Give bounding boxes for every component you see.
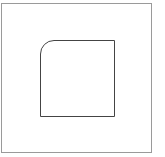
rounded-corner-square [40, 40, 115, 117]
